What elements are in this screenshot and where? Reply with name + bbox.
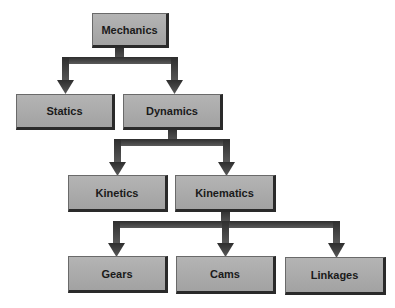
node-cams: Cams [176, 256, 276, 294]
node-mechanics: Mechanics [92, 13, 169, 48]
node-kinetics: Kinetics [68, 175, 168, 212]
node-label: Cams [210, 268, 240, 280]
node-kinematics: Kinematics [175, 175, 276, 212]
node-label: Mechanics [101, 24, 157, 36]
node-label: Statics [46, 105, 82, 117]
node-gears: Gears [68, 256, 168, 293]
node-dynamics: Dynamics [123, 94, 223, 130]
node-label: Linkages [311, 269, 359, 281]
node-label: Dynamics [146, 105, 198, 117]
node-linkages: Linkages [285, 257, 386, 295]
node-label: Gears [101, 268, 132, 280]
node-label: Kinematics [195, 187, 254, 199]
node-statics: Statics [16, 94, 115, 130]
node-label: Kinetics [96, 187, 139, 199]
